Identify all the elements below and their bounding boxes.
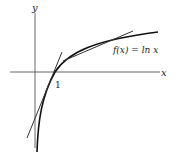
x-axis-label: x bbox=[161, 67, 167, 78]
y-axis-label: y bbox=[31, 2, 38, 13]
tangent-line-at-1 bbox=[27, 52, 62, 138]
tick-label-1: 1 bbox=[55, 80, 61, 90]
ln-graph: y x 1 f(x) = ln x bbox=[0, 0, 176, 157]
curve-label: f(x) = ln x bbox=[112, 45, 158, 55]
